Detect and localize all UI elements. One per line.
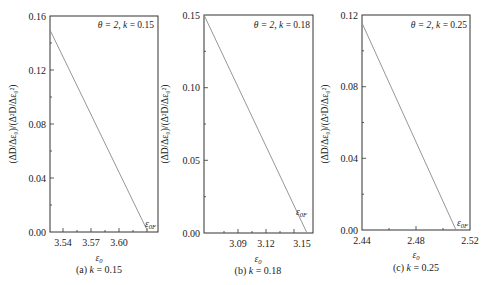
plot-frame-a [50,16,158,232]
caption-b: (b) k = 0.18 [235,265,282,277]
y-ticks-a [50,43,147,232]
epsilon-0f-label-b: ε0F [296,207,308,218]
y-tick-label: 0.08 [29,119,47,130]
y-tick-label: 0.04 [341,153,359,164]
epsilon-0f-label-c: ε0F [457,218,469,229]
x-axis-label-a: ε0 [96,253,104,264]
y-tick-label: 0.00 [183,228,201,239]
y-ticks-c [362,51,443,230]
annotation-a: θ = 2, k = 0.15 [98,20,155,30]
x-tick-label: 3.54 [54,237,72,248]
x-tick-label: 3.15 [293,238,311,249]
y-axis-label-b: (ΔD/Δε₀)/(Δ²D/Δε₀²) [160,84,171,163]
data-line-c [362,23,456,230]
y-axis-label-c: (ΔD/Δε₀)/(Δ²D/Δε₀²) [320,84,331,163]
annotation-c: θ = 2, k = 0.25 [411,20,468,30]
data-line-b [204,15,307,233]
caption-c: (c) k = 0.25 [393,262,439,274]
y-tick-label: 0.12 [341,10,359,21]
y-ticks-b [204,51,294,233]
y-axis-label-a: (ΔD/Δε₀)/(Δ²D/Δε₀²) [8,84,19,163]
plot-frame-c [362,15,470,230]
y-tick-label: 0.00 [341,225,359,236]
y-tick-label: 0.00 [29,227,47,238]
panel-a: 0.00 0.04 0.08 0.12 0.16 3.54 3.57 3.60 … [8,11,158,277]
y-tick-label: 0.12 [29,65,47,76]
x-axis-label-b: ε0 [255,254,263,265]
y-tick-label: 0.05 [183,155,201,166]
x-tick-label: 2.48 [407,235,425,246]
x-tick-label: 2.52 [461,235,479,246]
y-tick-label: 0.04 [29,173,47,184]
figure: 0.00 0.04 0.08 0.12 0.16 3.54 3.57 3.60 … [0,0,484,285]
annotation-b: θ = 2, k = 0.18 [254,20,311,30]
epsilon-0f-label-a: ε0F [145,219,157,230]
x-tick-label: 3.12 [257,238,275,249]
caption-a: (a) k = 0.15 [76,264,122,276]
x-axis-label-c: ε0 [413,250,421,261]
x-tick-label: 2.44 [353,235,371,246]
y-tick-label: 0.10 [183,82,201,93]
data-line-a [50,30,148,232]
y-tick-label: 0.15 [183,10,201,21]
x-tick-label: 3.57 [82,237,100,248]
x-tick-label: 3.60 [110,237,128,248]
y-tick-label: 0.08 [341,81,359,92]
y-tick-label: 0.16 [29,11,47,22]
plot-frame-b [204,15,313,233]
panel-b: 0.00 0.05 0.10 0.15 3.09 3.12 3.15 θ = 2… [160,10,313,278]
panel-c: 0.00 0.04 0.08 0.12 2.44 2.48 2.52 θ = 2… [320,10,479,275]
x-tick-label: 3.09 [229,238,247,249]
